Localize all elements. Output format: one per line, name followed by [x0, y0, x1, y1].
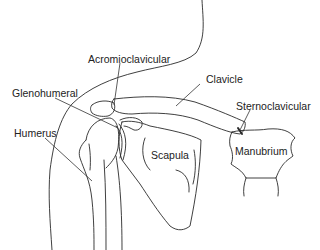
acromion	[91, 101, 115, 116]
humerus-shaft-groove	[89, 144, 90, 170]
leader-glenohumeral	[55, 98, 118, 128]
manubrium-lower-right	[276, 178, 278, 196]
label-manubrium: Manubrium	[235, 146, 288, 157]
humerus-head	[86, 118, 119, 168]
label-acromioclavicular: Acromioclavicular	[88, 54, 170, 65]
humerus-tubercle	[79, 140, 94, 250]
scapula-bone	[119, 121, 201, 230]
scapula-spine-curve	[143, 138, 150, 170]
humerus-shaft-inner	[104, 160, 106, 250]
body-outline	[49, 0, 203, 250]
leader-humerus	[45, 138, 92, 181]
scapula-inner-curve	[176, 170, 189, 192]
coracoid-process	[120, 118, 142, 131]
label-glenohumeral: Glenohumeral	[12, 88, 78, 99]
scapula-lateral-curve	[193, 150, 195, 184]
humerus-medial-edge	[116, 156, 122, 250]
label-sternoclavicular: Sternoclavicular	[236, 101, 311, 112]
label-clavicle: Clavicle	[206, 74, 243, 85]
label-scapula: Scapula	[151, 150, 189, 161]
shoulder-anatomy-diagram	[0, 0, 320, 250]
label-humerus: Humerus	[14, 128, 57, 139]
manubrium-lower-left	[244, 178, 246, 196]
